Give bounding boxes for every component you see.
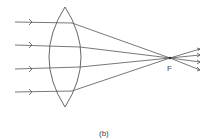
- focal-label: F: [167, 64, 172, 73]
- ray-4: [15, 58, 200, 95]
- arrow-head-icon: [29, 42, 32, 48]
- convex-lens: [49, 7, 81, 107]
- lens-diagram: F (b): [0, 0, 207, 140]
- ray-2: [15, 42, 200, 58]
- ray-1: [15, 19, 200, 58]
- arrow-head-icon: [29, 66, 32, 72]
- ray-3: [15, 58, 200, 72]
- figure-caption: (b): [99, 129, 109, 138]
- focal-point: [169, 57, 172, 60]
